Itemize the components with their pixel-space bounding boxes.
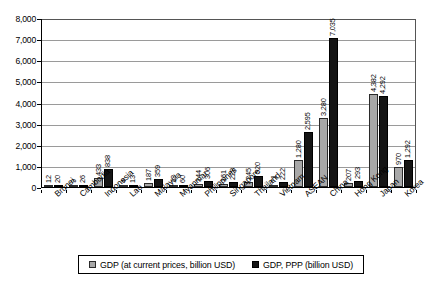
bar-group: 433838 [92,19,117,187]
x-axis-tick-mark [291,190,292,193]
bar-group: 1220 [42,19,67,187]
y-axis-tick-label: 5,000 [2,78,36,87]
bar-value-label: 4,292 [379,77,387,95]
x-axis-tick-mark [366,190,367,193]
x-axis-tick-mark [341,190,342,193]
bar-group: 413 [117,19,142,187]
bar-group: 144306 [192,19,217,187]
y-axis-tick-label: 2,000 [2,141,36,150]
bar-value-label: 1,280 [295,140,303,158]
x-axis-tick-mark [116,190,117,193]
x-axis-category-label: Vietnam [278,192,284,199]
x-axis-tick-mark [391,190,392,193]
bar-group: 1,2802,595 [292,19,317,187]
x-axis-category-label: Brunei [53,192,59,199]
x-axis-tick-mark [91,190,92,193]
x-axis-category-label: ASEAN [303,192,309,199]
x-axis-category-label: Philippines [203,192,209,199]
bar-group: 9701,292 [392,19,417,187]
x-axis-category-label: Japan [378,192,384,199]
bar-value-label: 7,035 [329,19,337,37]
bar-group: 3,2807,035 [317,19,342,187]
x-axis-tick-mark [41,190,42,193]
x-axis-category-label: Korea [403,192,409,199]
bar-group: 71222 [267,19,292,187]
bar: 187 [144,183,153,187]
legend-item: GDP, PPP (billion USD) [252,260,353,270]
bar-series-container: 1220926433838413187359136014430616122824… [42,19,415,187]
bar-value-label: 2,595 [304,112,312,130]
y-axis-tick-label: 4,000 [2,99,36,108]
plot-area: 1220926433838413187359136014430616122824… [41,19,416,188]
bar-value-label: 3,280 [320,98,328,116]
bar-value-label: 187 [145,169,153,181]
x-axis-category-label: Cambodia [78,192,84,199]
x-axis-category-label: Singapore [228,192,234,199]
x-axis-tick-mark [166,190,167,193]
bar-value-label: 970 [395,153,403,165]
legend-label: GDP (at current prices, billion USD) [100,260,235,270]
bar: 12 [44,185,53,187]
bar-group: 187359 [142,19,167,187]
x-axis-category-labels: BruneiCambodiaIndonesiaLaoMalaysiaMyanma… [41,190,416,248]
bar-value-label: 359 [154,166,162,178]
x-axis-tick-mark [141,190,142,193]
y-axis-tick-label: 8,000 [2,15,36,24]
legend-label: GDP, PPP (billion USD) [263,260,353,270]
y-axis-tick-label: 6,000 [2,57,36,66]
gdp-comparison-bar-chart: 01,0002,0003,0004,0005,0006,0007,0008,00… [0,0,428,291]
bar-group: 926 [67,19,92,187]
x-axis-category-label: China [328,192,334,199]
chart-legend: GDP (at current prices, billion USD)GDP,… [78,255,364,274]
x-axis-category-label: Indonesia [103,192,109,199]
bar-value-label: 4,382 [370,75,378,93]
x-axis-tick-mark [266,190,267,193]
bar-group: 245520 [242,19,267,187]
y-axis-tick-label: 7,000 [2,36,36,45]
x-axis-category-label: Malaysia [153,192,159,199]
x-axis-category-label: Lao [128,192,134,199]
y-axis-tick-label: 0 [2,184,36,193]
bar-value-label: 207 [345,169,353,181]
legend-color-swatch [89,261,96,268]
y-axis-tick-label: 3,000 [2,120,36,129]
bar-value-label: 12 [45,175,53,183]
x-axis-category-label: Hong Kong [353,192,359,199]
x-axis-tick-mark [416,190,417,193]
bar-value-label: 293 [354,167,362,179]
bar-group: 4,3824,292 [367,19,392,187]
y-axis-tick-mark [37,188,41,189]
bar-group: 207293 [342,19,367,187]
legend-item: GDP (at current prices, billion USD) [89,260,235,270]
x-axis-tick-mark [241,190,242,193]
x-axis-tick-mark [191,190,192,193]
bar-group: 161228 [217,19,242,187]
x-axis-category-label: Thailand [253,192,259,199]
bar: 7,035 [329,38,338,187]
x-axis-tick-mark [66,190,67,193]
bar-value-label: 1,292 [404,140,412,158]
x-axis-category-label: Myanmar [178,192,184,199]
legend-color-swatch [252,261,259,268]
x-axis-tick-mark [316,190,317,193]
bar-group: 1360 [167,19,192,187]
bar-value-label: 838 [104,155,112,167]
y-axis-tick-label: 1,000 [2,162,36,171]
x-axis-tick-mark [216,190,217,193]
